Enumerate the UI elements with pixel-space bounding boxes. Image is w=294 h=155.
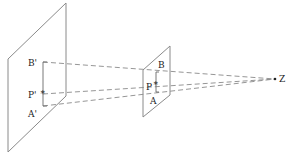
ray-a-prime-to-z (43, 79, 275, 106)
large-plane (8, 3, 66, 152)
label-p: P (146, 82, 152, 92)
marker-p: * (154, 80, 159, 90)
label-a-prime: A' (27, 109, 37, 119)
point-z (274, 78, 277, 81)
label-z: Z (279, 74, 285, 84)
label-b-prime: B' (28, 58, 37, 68)
label-b: B (158, 60, 165, 70)
label-a: A (149, 96, 157, 106)
marker-p-prime: * (41, 89, 46, 99)
label-p-prime: P' (28, 90, 37, 100)
projection-diagram: * * B' P' A' B P A Z (0, 0, 294, 155)
